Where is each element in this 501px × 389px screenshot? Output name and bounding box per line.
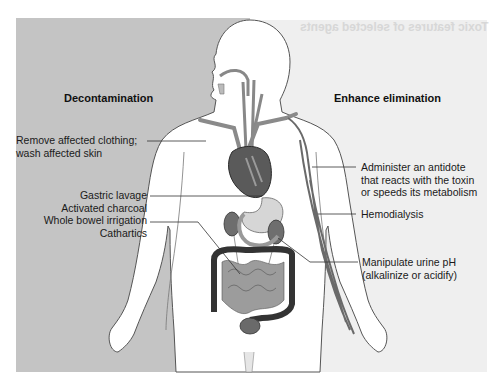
label-antidote: Administer an antidote that reacts with … (361, 161, 477, 199)
leg-gap (244, 352, 254, 372)
label-hemodialysis: Hemodialysis (361, 208, 423, 221)
enhance-elimination-heading: Enhance elimination (334, 92, 441, 104)
decontamination-heading: Decontamination (64, 92, 153, 104)
bladder-icon (240, 318, 260, 334)
label-remove-clothing: Remove affected clothing; wash affected … (16, 134, 137, 159)
label-urine-ph: Manipulate urine pH (alkalinize or acidi… (362, 256, 457, 281)
label-gastric-interventions: Gastric lavage Activated charcoal Whole … (44, 189, 147, 239)
